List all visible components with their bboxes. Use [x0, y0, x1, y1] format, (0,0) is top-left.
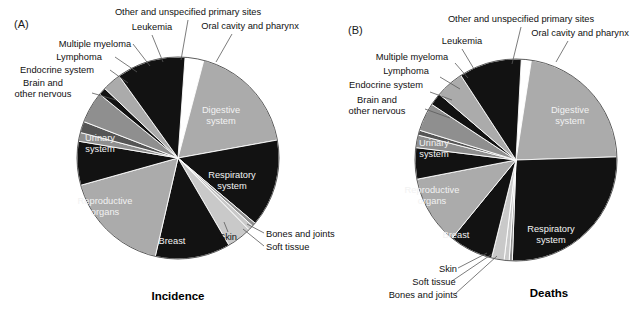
label-oral-cavity: Oral cavity and pharynx	[201, 21, 299, 31]
label-brain-2: other nervous	[15, 89, 72, 99]
label-other-primary: Other and unspecified primary sites	[448, 14, 595, 24]
label-multiple-myeloma: Multiple myeloma	[376, 52, 449, 62]
label-digestive: Digestivesystem	[551, 105, 589, 126]
cancer-incidence-deaths-figure: (A) Other and unspecified primary sitesO…	[0, 0, 637, 310]
label-soft-tissue: Soft tissue	[412, 277, 455, 287]
label-multiple-myeloma: Multiple myeloma	[59, 39, 132, 49]
label-urinary: Urinarysystem	[85, 133, 115, 154]
label-brain-1: Brain and	[23, 78, 63, 88]
label-bones-joints: Bones and joints	[266, 229, 335, 239]
panel-a-caption: Incidence	[151, 290, 204, 302]
label-skin: Skin	[439, 264, 457, 274]
label-digestive: Digestivesystem	[202, 105, 240, 126]
label-brain-2: other nervous	[349, 106, 406, 116]
label-leukemia: Leukemia	[442, 36, 483, 46]
label-leukemia: Leukemia	[132, 22, 173, 32]
label-breast: Breast	[443, 230, 470, 240]
panel-a-pie	[77, 57, 279, 259]
label-urinary: Urinarysystem	[419, 138, 449, 159]
label-breast: Breast	[159, 236, 186, 246]
label-lymphoma: Lymphoma	[56, 52, 102, 62]
panel-b-tag: (B)	[348, 24, 363, 36]
panel-a-tag: (A)	[14, 18, 29, 30]
label-brain-1: Brain and	[357, 95, 397, 105]
label-endocrine: Endocrine system	[349, 80, 423, 90]
label-lymphoma: Lymphoma	[383, 66, 429, 76]
label-skin: Skin	[219, 232, 237, 242]
label-soft-tissue: Soft tissue	[266, 242, 309, 252]
label-bones-joints: Bones and joints	[389, 290, 458, 300]
label-oral-cavity: Oral cavity and pharynx	[531, 28, 629, 38]
label-other-primary: Other and unspecified primary sites	[115, 7, 262, 17]
label-endocrine: Endocrine system	[20, 65, 94, 75]
panel-b-caption: Deaths	[530, 287, 568, 299]
